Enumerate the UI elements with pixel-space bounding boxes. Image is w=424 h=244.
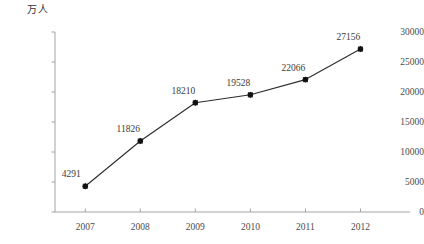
data-series-layer [82, 46, 363, 190]
data-point-marker [357, 46, 363, 52]
line-chart: 万人 050001000015000200002500030000 200720… [0, 0, 424, 244]
data-point-marker [137, 138, 143, 144]
data-point-marker [247, 92, 253, 98]
data-point-marker [302, 76, 308, 82]
data-point-marker [192, 100, 198, 106]
plot-area [0, 0, 424, 244]
data-point-marker [82, 183, 88, 189]
axis-lines [52, 32, 411, 212]
